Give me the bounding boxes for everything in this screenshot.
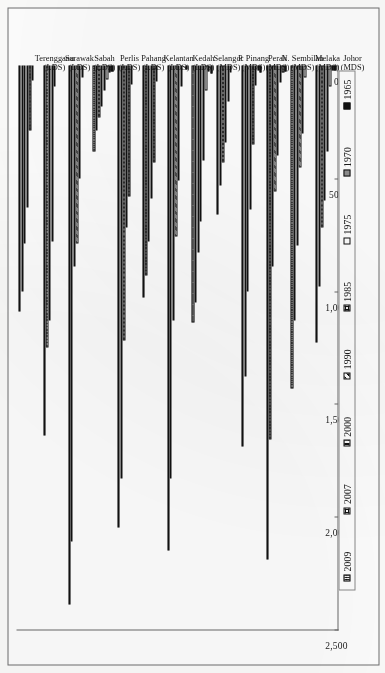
bar-1990	[199, 65, 201, 221]
bar-2007	[219, 65, 221, 185]
chart-frame: 05001,0001,5002,0002,500 Terengganu(LDS)…	[7, 7, 379, 665]
bar-group	[239, 66, 264, 629]
scanned-page: 05001,0001,5002,0002,500 Terengganu(LDS)…	[0, 0, 385, 673]
legend-swatch-icon	[343, 102, 350, 109]
bar-2009	[167, 65, 169, 550]
bar-1990	[51, 65, 53, 241]
bar-1985	[78, 65, 80, 178]
bar-1985	[28, 65, 30, 130]
bar-2000	[147, 65, 149, 241]
bar-group	[288, 66, 313, 629]
bar-1985	[276, 65, 278, 155]
legend-item-1965[interactable]: 1965	[341, 79, 352, 109]
bar-2009	[241, 65, 243, 446]
bar-2000	[122, 65, 124, 340]
legend-item-2007[interactable]: 2007	[341, 484, 352, 514]
legend-swatch-icon	[343, 507, 350, 514]
bar-2007	[268, 65, 270, 439]
bar-2009	[142, 65, 144, 297]
bar-1985	[301, 65, 303, 133]
legend-label: 1990	[341, 349, 352, 369]
bar-2000	[73, 65, 75, 266]
bar-2007	[70, 65, 72, 541]
legend-item-2009[interactable]: 2009	[341, 551, 352, 581]
bar-2007	[95, 65, 97, 130]
bar-1990	[174, 65, 176, 236]
bar-groups	[16, 66, 337, 629]
bar-2007	[144, 65, 146, 275]
legend-swatch-icon	[343, 372, 350, 379]
legend-swatch-icon	[343, 574, 350, 581]
bar-group	[140, 66, 165, 629]
bar-2000	[23, 65, 25, 243]
bar-2007	[293, 65, 295, 320]
bar-1990	[26, 65, 28, 207]
bar-2007	[244, 65, 246, 376]
bar-group	[313, 66, 338, 629]
bar-2009	[216, 65, 218, 214]
bar-2007	[45, 65, 47, 347]
legend-swatch-icon	[343, 304, 350, 311]
bar-2009	[43, 65, 45, 435]
legend-item-2000[interactable]: 2000	[341, 416, 352, 446]
bar-2009	[117, 65, 119, 527]
bar-1990	[298, 65, 300, 167]
legend-label: 1985	[341, 281, 352, 301]
bar-2000	[172, 65, 174, 320]
bar-group	[90, 66, 115, 629]
bar-2009	[68, 65, 70, 604]
bar-2000	[296, 65, 298, 245]
bar-2009	[315, 65, 317, 342]
chart-rotation-wrapper: 05001,0001,5002,0002,500 Terengganu(LDS)…	[0, 0, 385, 673]
plot-area: 05001,0001,5002,0002,500	[16, 66, 338, 630]
legend-item-1990[interactable]: 1990	[341, 349, 352, 379]
legend-label: 1965	[341, 79, 352, 99]
bar-group	[264, 66, 289, 629]
bar-2009	[266, 65, 268, 559]
legend-label: 2009	[341, 551, 352, 571]
legend-swatch-icon	[343, 439, 350, 446]
bar-2000	[221, 65, 223, 162]
bar-2009	[92, 65, 94, 151]
bar-group	[66, 66, 91, 629]
bar-2009	[290, 65, 292, 388]
bar-2000	[197, 65, 199, 252]
bar-1990	[323, 65, 325, 200]
bar-1990	[273, 65, 275, 191]
legend-item-1985[interactable]: 1985	[341, 281, 352, 311]
legend-swatch-icon	[343, 237, 350, 244]
bar-group	[41, 66, 66, 629]
bar-2009	[191, 65, 193, 322]
legend-item-1970[interactable]: 1970	[341, 146, 352, 176]
bar-group	[165, 66, 190, 629]
bar-2000	[246, 65, 248, 291]
bar-2007	[21, 65, 23, 291]
chart-canvas: 05001,0001,5002,0002,500 Terengganu(LDS)…	[0, 0, 385, 673]
bar-group	[214, 66, 239, 629]
bar-1985	[177, 65, 179, 180]
bar-1990	[75, 65, 77, 243]
bar-2009	[18, 65, 20, 311]
bar-1990	[224, 65, 226, 142]
bar-2000	[320, 65, 322, 227]
bar-2007	[120, 65, 122, 478]
bar-2007	[169, 65, 171, 478]
bar-group	[189, 66, 214, 629]
bar-2000	[271, 65, 273, 266]
legend-swatch-icon	[343, 169, 350, 176]
bar-1985	[202, 65, 204, 160]
legend-label: 1970	[341, 146, 352, 166]
bar-1985	[326, 65, 328, 151]
chart-legend: 20092007200019901985197519701965	[338, 70, 355, 590]
bar-1990	[249, 65, 251, 209]
bar-2007	[318, 65, 320, 286]
bar-1990	[125, 65, 127, 227]
bar-1985	[152, 65, 154, 162]
bar-1985	[127, 65, 129, 196]
legend-label: 1975	[341, 214, 352, 234]
legend-label: 2000	[341, 416, 352, 436]
category-label-line: Johor	[326, 54, 378, 63]
legend-item-1975[interactable]: 1975	[341, 214, 352, 244]
bar-1990	[150, 65, 152, 198]
bar-group	[16, 66, 41, 629]
